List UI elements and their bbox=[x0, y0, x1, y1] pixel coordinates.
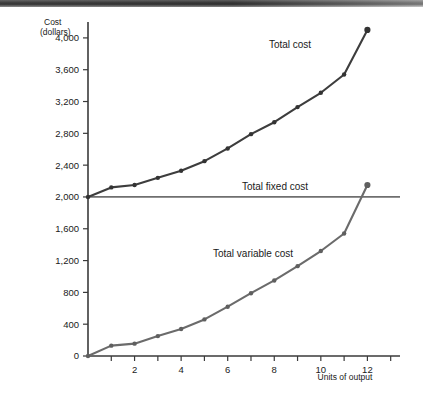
data-point bbox=[179, 327, 183, 331]
data-point bbox=[319, 91, 323, 95]
total-fixed-cost-label: Total fixed cost bbox=[242, 181, 308, 192]
data-point bbox=[156, 334, 160, 338]
data-point bbox=[249, 132, 253, 136]
data-point bbox=[132, 341, 136, 345]
y-axis-tick-labels: 04008001,2001,6002,0002,4002,8003,2003,6… bbox=[55, 32, 79, 361]
x-tick-label: 2 bbox=[132, 364, 137, 375]
total-cost-line bbox=[88, 30, 367, 197]
y-tick-label: 800 bbox=[63, 287, 79, 298]
total-cost-label: Total cost bbox=[269, 39, 311, 50]
data-point bbox=[202, 159, 206, 163]
data-point bbox=[364, 182, 370, 188]
data-point bbox=[179, 169, 183, 173]
data-point bbox=[132, 183, 136, 187]
data-point bbox=[202, 317, 206, 321]
data-point bbox=[295, 264, 299, 268]
x-tick-label: 6 bbox=[225, 364, 230, 375]
y-axis: 04008001,2001,6002,0002,4002,8003,2003,6… bbox=[55, 22, 88, 361]
total-cost-markers bbox=[86, 27, 371, 199]
data-point bbox=[364, 27, 370, 33]
x-axis-title: Units of output bbox=[318, 372, 373, 382]
y-tick-label: 2,800 bbox=[55, 128, 79, 139]
data-point bbox=[249, 291, 253, 295]
cost-curves-chart: 04008001,2001,6002,0002,4002,8003,2003,6… bbox=[0, 0, 423, 398]
y-axis-title-line2: (dollars) bbox=[40, 27, 71, 37]
data-point bbox=[295, 105, 299, 109]
data-point bbox=[86, 354, 90, 358]
total-variable-cost-markers bbox=[86, 182, 371, 358]
x-tick-label: 4 bbox=[178, 364, 183, 375]
y-tick-label: 400 bbox=[63, 319, 79, 330]
data-point bbox=[109, 343, 113, 347]
y-tick-label: 1,600 bbox=[55, 223, 79, 234]
y-tick-label: 3,600 bbox=[55, 64, 79, 75]
total-variable-cost-label: Total variable cost bbox=[213, 248, 293, 259]
y-tick-label: 2,400 bbox=[55, 160, 79, 171]
x-tick-label: 8 bbox=[272, 364, 277, 375]
data-point bbox=[342, 72, 346, 76]
y-tick-label: 3,200 bbox=[55, 96, 79, 107]
data-point bbox=[226, 146, 230, 150]
y-tick-label: 0 bbox=[74, 350, 79, 361]
data-point bbox=[86, 195, 90, 199]
chart-svg: 04008001,2001,6002,0002,4002,8003,2003,6… bbox=[0, 0, 423, 398]
data-point bbox=[342, 231, 346, 235]
data-point bbox=[109, 185, 113, 189]
y-tick-label: 2,000 bbox=[55, 191, 79, 202]
data-point bbox=[272, 120, 276, 124]
data-point bbox=[319, 249, 323, 253]
y-tick-label: 1,200 bbox=[55, 255, 79, 266]
data-point bbox=[226, 305, 230, 309]
y-axis-title-line1: Cost bbox=[44, 17, 62, 27]
data-point bbox=[272, 278, 276, 282]
total-variable-cost-line bbox=[88, 185, 367, 356]
data-point bbox=[156, 176, 160, 180]
